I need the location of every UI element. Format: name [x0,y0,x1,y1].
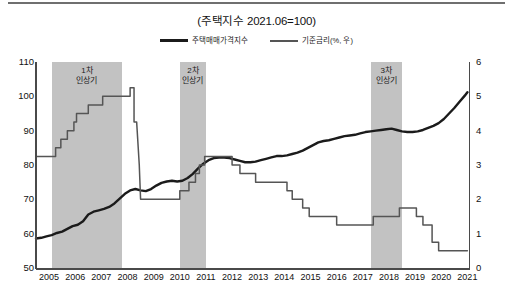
x-tick: 2006 [65,272,85,282]
series-line-base-rate [36,88,467,251]
legend-label-base-rate: 기준금리(%, 우) [302,37,353,45]
x-tick: 2016 [327,272,347,282]
x-tick: 2017 [353,272,373,282]
x-axis: 2005200620072008200920102011201220132014… [36,272,470,288]
y-tick-right: 6 [476,57,481,67]
x-tick: 2011 [196,272,215,282]
x-tick: 2015 [301,272,321,282]
x-tick: 2020 [431,272,451,282]
x-tick: 2007 [91,272,111,282]
y-tick-right: 2 [476,194,481,204]
x-tick: 2012 [222,272,242,282]
x-tick: 2010 [170,272,190,282]
y-tick-left: 50 [23,263,34,273]
series-line-house-price-index [36,92,467,238]
chart-root: (주택지수 2021.06=100) 주택매매가격지수 기준금리(%, 우) 1… [0,0,513,300]
y-tick-left: 100 [18,91,34,101]
x-axis-line [36,268,470,270]
series-layer [36,62,470,268]
legend-swatch-icon [270,40,298,42]
y-tick-left: 60 [23,229,34,239]
y-axis-right: 6543210 [476,62,500,268]
y-tick-right: 4 [476,126,481,136]
y-tick-left: 90 [23,126,34,136]
x-tick: 2018 [379,272,399,282]
y-tick-left: 70 [23,194,34,204]
legend-entry-base-rate: 기준금리(%, 우) [270,37,353,45]
x-tick: 2021 [457,272,477,282]
y-tick-left: 80 [23,160,34,170]
y-tick-right: 5 [476,91,481,101]
top-divider-rule [8,2,505,4]
x-tick: 2014 [274,272,294,282]
x-tick: 2005 [39,272,59,282]
x-tick: 2013 [248,272,268,282]
x-tick: 2019 [405,272,425,282]
chart-legend: 주택매매가격지수 기준금리(%, 우) [0,37,513,45]
y-tick-left: 110 [19,57,34,67]
legend-swatch-icon [160,39,188,42]
chart-title: (주택지수 2021.06=100) [0,12,513,28]
x-tick: 2008 [117,272,137,282]
legend-label-house-price-index: 주택매매가격지수 [192,37,248,45]
y-axis-left: 1101009080706050 [6,62,34,268]
y-tick-right: 3 [476,160,481,170]
plot-area: 1차인상기2차인상기3차인상기 [36,62,470,268]
x-tick: 2009 [144,272,164,282]
y-axis-left-line [35,62,36,269]
legend-entry-house-price-index: 주택매매가격지수 [160,37,248,45]
y-axis-right-line [469,62,470,269]
y-tick-right: 1 [476,229,481,239]
